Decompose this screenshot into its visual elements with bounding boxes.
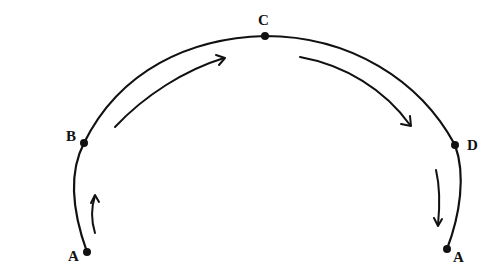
arrow-up-right-icon (115, 55, 225, 127)
arc-track (74, 36, 461, 252)
arrow-down-right-icon (300, 57, 411, 126)
label-d: D (467, 137, 478, 153)
point-a-right-dot (443, 245, 451, 253)
label-a-right: A (453, 249, 464, 265)
arrow-up-icon (91, 195, 99, 233)
point-c-dot (261, 32, 269, 40)
point-a-left-dot (83, 248, 91, 256)
track-diagram: A B C D A (0, 0, 489, 275)
point-d-dot (451, 141, 459, 149)
label-b: B (66, 128, 76, 144)
arrow-down-icon (434, 170, 442, 226)
label-a-left: A (68, 248, 79, 264)
label-c: C (258, 12, 269, 28)
point-b-dot (80, 139, 88, 147)
